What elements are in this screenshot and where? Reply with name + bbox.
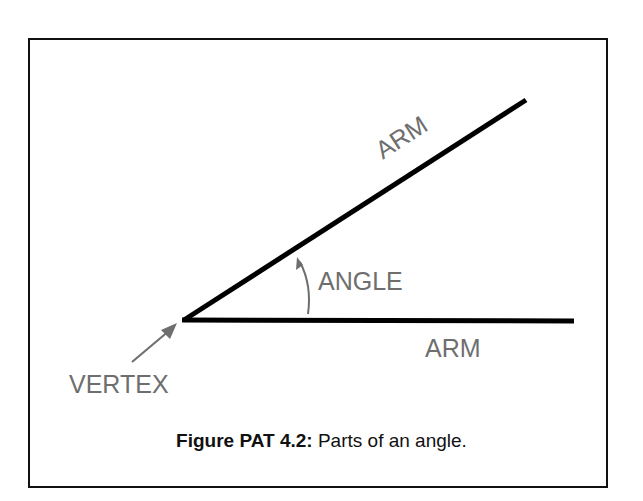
angle-diagram	[0, 0, 643, 501]
figure-caption: Figure PAT 4.2: Parts of an angle.	[0, 431, 643, 450]
angle-label: ANGLE	[318, 269, 403, 294]
lower-arm-line	[182, 320, 574, 321]
angle-arc-icon	[300, 262, 309, 314]
caption-text: Parts of an angle.	[313, 430, 467, 451]
vertex-pointer-line	[132, 330, 170, 362]
lower-arm-label: ARM	[425, 336, 481, 361]
vertex-label: VERTEX	[69, 372, 169, 397]
caption-prefix: Figure PAT 4.2:	[176, 430, 313, 451]
